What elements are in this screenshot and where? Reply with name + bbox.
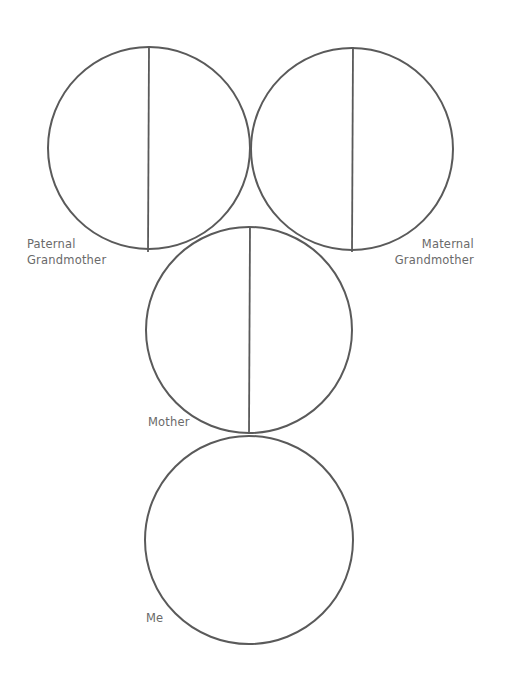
circle-divider xyxy=(148,47,149,252)
ancestry-diagram xyxy=(0,0,505,678)
maternal-grandmother-label: Maternal Grandmother xyxy=(393,236,474,268)
circle-divider xyxy=(352,47,353,252)
label-line: Grandmother xyxy=(393,252,474,268)
paternal-grandmother-label: Paternal Grandmother xyxy=(27,236,106,268)
label-line: Mother xyxy=(148,414,190,430)
mother-circle[interactable] xyxy=(146,227,352,433)
label-line: Paternal xyxy=(27,236,106,252)
paternal-grandmother-circle[interactable] xyxy=(48,47,250,252)
me-circle[interactable] xyxy=(145,436,353,644)
label-line: Maternal xyxy=(393,236,474,252)
me-label: Me xyxy=(146,610,163,626)
circle-divider xyxy=(249,227,250,433)
maternal-grandmother-circle[interactable] xyxy=(251,47,453,252)
label-line: Grandmother xyxy=(27,252,106,268)
mother-label: Mother xyxy=(148,414,190,430)
label-line: Me xyxy=(146,610,163,626)
circle-outline xyxy=(145,436,353,644)
